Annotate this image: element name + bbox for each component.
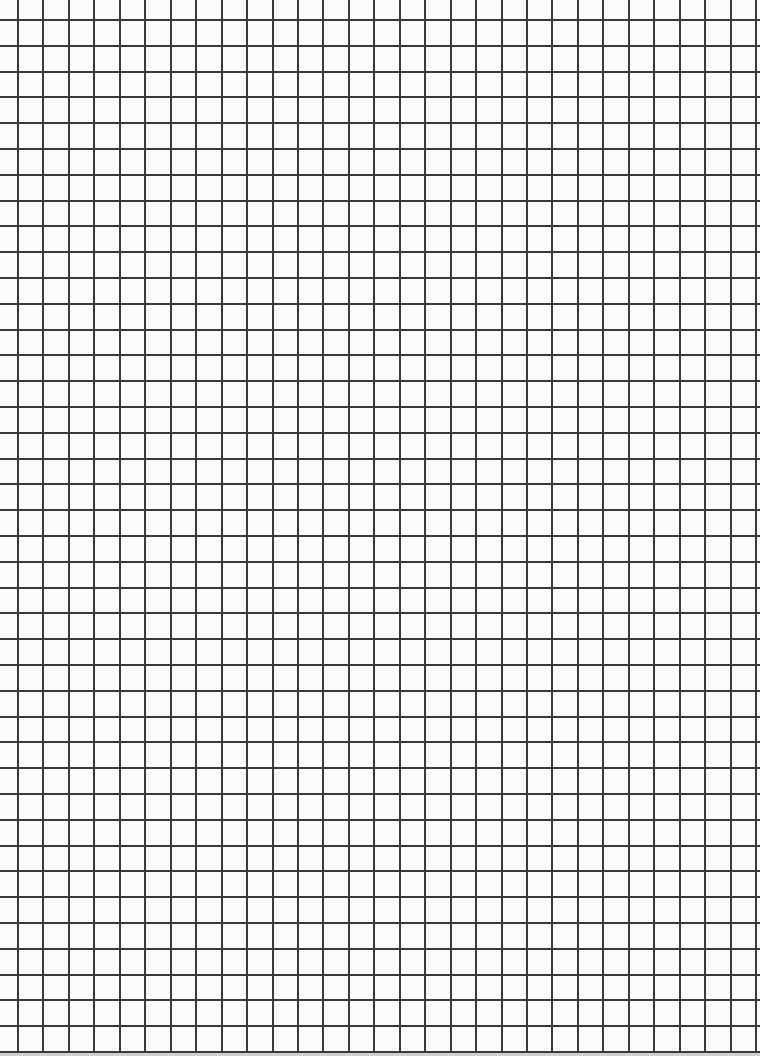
grid-horizontal-line: [0, 329, 760, 331]
grid-horizontal-line: [0, 716, 760, 718]
grid-horizontal-line: [0, 561, 760, 563]
grid-horizontal-line: [0, 354, 760, 356]
grid-horizontal-line: [0, 148, 760, 150]
grid-horizontal-line: [0, 767, 760, 769]
grid-horizontal-line: [0, 896, 760, 898]
grid-horizontal-line: [0, 483, 760, 485]
grid-horizontal-line: [0, 225, 760, 227]
grid-horizontal-line: [0, 303, 760, 305]
grid-horizontal-line: [0, 174, 760, 176]
grid-horizontal-line: [0, 948, 760, 950]
grid-horizontal-line: [0, 200, 760, 202]
grid-horizontal-line: [0, 870, 760, 872]
grid-horizontal-line: [0, 845, 760, 847]
grid-horizontal-line: [0, 96, 760, 98]
grid-horizontal-line: [0, 380, 760, 382]
grid-horizontal-line: [0, 741, 760, 743]
grid-horizontal-line: [0, 19, 760, 21]
grid-paper: [0, 0, 760, 1056]
grid-horizontal-line: [0, 45, 760, 47]
grid-horizontal-line: [0, 974, 760, 976]
grid-horizontal-line: [0, 1025, 760, 1027]
grid-horizontal-line: [0, 458, 760, 460]
grid-horizontal-line: [0, 612, 760, 614]
grid-horizontal-line: [0, 406, 760, 408]
grid-horizontal-line: [0, 664, 760, 666]
grid-horizontal-line: [0, 587, 760, 589]
grid-horizontal-line: [0, 793, 760, 795]
grid-horizontal-line: [0, 432, 760, 434]
grid-horizontal-line: [0, 819, 760, 821]
grid-horizontal-line: [0, 122, 760, 124]
grid-horizontal-line: [0, 638, 760, 640]
grid-horizontal-line: [0, 71, 760, 73]
grid-horizontal-line: [0, 277, 760, 279]
grid-horizontal-line: [0, 251, 760, 253]
grid-horizontal-line: [0, 535, 760, 537]
grid-horizontal-line: [0, 509, 760, 511]
grid-horizontal-line: [0, 922, 760, 924]
grid-horizontal-line: [0, 999, 760, 1001]
grid-horizontal-line: [0, 690, 760, 692]
